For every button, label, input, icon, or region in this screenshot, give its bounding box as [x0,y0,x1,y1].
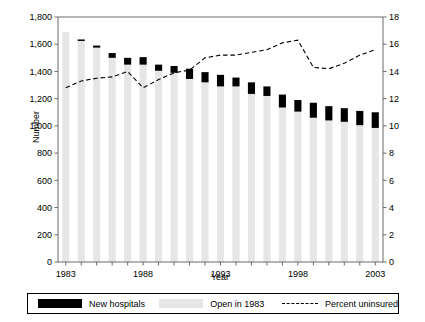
y-tick-label-right: 16 [389,39,399,49]
bar-open-1983 [248,94,255,262]
bar-new-hospitals [372,112,379,128]
bar-open-1983 [279,108,286,262]
bar-new-hospitals [78,39,85,41]
y-tick-label-right: 10 [389,121,399,131]
y-axis-title: Number [31,97,41,157]
y-tick-label-right: 0 [389,257,394,267]
bar-open-1983 [78,41,85,262]
y-tick-label-left: 600 [37,176,52,186]
bar-new-hospitals [279,95,286,108]
x-tick-label: 2003 [365,269,385,279]
bar-open-1983 [294,112,301,262]
bar-open-1983 [62,32,69,262]
bar-new-hospitals [109,53,116,58]
bar-open-1983 [217,86,224,262]
bar-new-hospitals [171,66,178,73]
bar-new-hospitals [310,103,317,118]
bar-new-hospitals [263,86,270,96]
bar-new-hospitals [155,65,162,71]
chart-canvas: 02004006008001,0001,2001,4001,6001,80002… [0,0,425,284]
black-bar-swatch-icon [38,299,82,308]
bar-open-1983 [263,96,270,262]
bar-new-hospitals [356,111,363,125]
bar-new-hospitals [248,82,255,94]
plot-area: 02004006008001,0001,2001,4001,6001,80002… [0,0,425,284]
legend-item-percent-uninsured: Percent uninsured [282,299,398,309]
bar-open-1983 [109,58,116,262]
bar-open-1983 [124,65,131,262]
bar-open-1983 [93,48,100,262]
bar-new-hospitals [232,78,239,87]
y-tick-label-right: 8 [389,148,394,158]
bar-open-1983 [310,118,317,262]
y-tick-label-right: 18 [389,12,399,22]
bar-open-1983 [155,71,162,262]
bar-open-1983 [325,120,332,262]
chart-figure: 02004006008001,0001,2001,4001,6001,80002… [0,0,425,322]
bar-open-1983 [201,82,208,262]
x-tick-label: 1983 [56,269,76,279]
y-tick-label-left: 1,400 [29,67,52,77]
y-tick-label-left: 1,800 [29,12,52,22]
bar-open-1983 [356,125,363,262]
bar-open-1983 [171,73,178,262]
bar-new-hospitals [341,108,348,122]
y-tick-label-right: 14 [389,67,399,77]
legend-label-open-in-1983: Open in 1983 [210,299,264,309]
bar-open-1983 [372,128,379,262]
y-tick-label-left: 0 [47,257,52,267]
gray-bar-swatch-icon [159,299,203,308]
legend-label-percent-uninsured: Percent uninsured [325,299,398,309]
bar-open-1983 [186,79,193,262]
bar-open-1983 [232,86,239,262]
y-tick-label-right: 12 [389,94,399,104]
bar-open-1983 [140,65,147,262]
bar-new-hospitals [217,75,224,87]
chart-legend: New hospitals Open in 1983 Percent unins… [27,293,399,314]
legend-item-open-in-1983: Open in 1983 [159,299,264,309]
y-tick-label-right: 2 [389,230,394,240]
bar-open-1983 [341,122,348,262]
x-tick-label: 1998 [288,269,308,279]
y-tick-label-right: 4 [389,203,394,213]
legend-item-new-hospitals: New hospitals [38,299,145,309]
bar-new-hospitals [325,106,332,120]
bar-new-hospitals [294,100,301,112]
legend-label-new-hospitals: New hospitals [89,299,145,309]
bar-new-hospitals [140,57,147,64]
y-tick-label-left: 400 [37,203,52,213]
y-tick-label-left: 1,600 [29,39,52,49]
y-tick-label-left: 200 [37,230,52,240]
bar-new-hospitals [124,58,131,65]
bar-new-hospitals [201,72,208,82]
y-tick-label-right: 6 [389,176,394,186]
dashed-line-swatch-icon [282,303,318,304]
bar-new-hospitals [93,46,100,48]
x-tick-label: 1988 [133,269,153,279]
x-axis-title: Year [180,272,260,282]
